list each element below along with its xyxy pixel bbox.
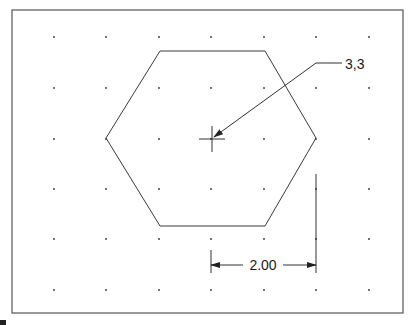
- grid-dot: [53, 289, 55, 291]
- grid-dot: [105, 188, 107, 190]
- grid-dot: [368, 36, 370, 38]
- grid-dot: [105, 289, 107, 291]
- center-coordinate-label: 3,3: [345, 56, 365, 72]
- grid-dot: [210, 289, 212, 291]
- grid-dot: [368, 87, 370, 89]
- grid-dot: [263, 188, 265, 190]
- center-mark: [199, 126, 225, 152]
- leader-annotation: 3,3: [214, 56, 365, 137]
- grid-dot: [210, 238, 212, 240]
- grid-dot: [263, 289, 265, 291]
- grid-dot: [210, 36, 212, 38]
- grid-dot: [105, 87, 107, 89]
- grid-dot: [158, 289, 160, 291]
- grid-dot: [263, 36, 265, 38]
- grid-dot: [263, 138, 265, 140]
- corner-mark: [0, 320, 6, 325]
- grid-dot: [158, 36, 160, 38]
- dimension-value-label: 2.00: [249, 257, 276, 273]
- grid-dot: [368, 289, 370, 291]
- grid-dot: [368, 138, 370, 140]
- grid-dot: [315, 289, 317, 291]
- cad-drawing-canvas: 3,3 2.00: [0, 0, 413, 325]
- grid-dot: [105, 238, 107, 240]
- grid-dot: [210, 87, 212, 89]
- grid-dot: [158, 138, 160, 140]
- grid-dot: [53, 36, 55, 38]
- grid-dot: [53, 188, 55, 190]
- grid-dot: [315, 36, 317, 38]
- grid-dot: [263, 238, 265, 240]
- grid-dot: [158, 238, 160, 240]
- grid-dot: [53, 138, 55, 140]
- grid-dot: [368, 188, 370, 190]
- grid-dot: [158, 87, 160, 89]
- grid-dot: [53, 238, 55, 240]
- grid-dot: [263, 87, 265, 89]
- grid-dot: [158, 188, 160, 190]
- grid-dot: [105, 36, 107, 38]
- grid-dot: [53, 87, 55, 89]
- grid-dot: [315, 87, 317, 89]
- grid-dot: [368, 238, 370, 240]
- grid-dot: [210, 188, 212, 190]
